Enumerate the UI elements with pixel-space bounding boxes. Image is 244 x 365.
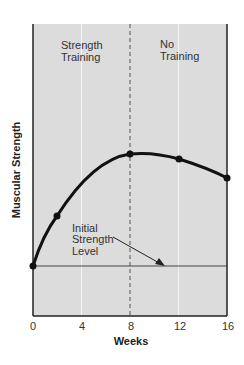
- data-point-week-2: [54, 213, 61, 220]
- data-point-week-0: [30, 263, 37, 270]
- chart: Strength Training No Training Initial St…: [0, 0, 244, 365]
- data-point-week-16: [224, 175, 231, 182]
- x-tick-0: 0: [30, 320, 36, 332]
- x-tick-16: 16: [222, 320, 234, 332]
- y-axis-title: Muscular Strength: [10, 121, 22, 218]
- region-label-no-training-2: Training: [160, 50, 199, 62]
- annotation-line-3: Level: [72, 245, 98, 257]
- x-tick-8: 8: [128, 320, 134, 332]
- data-point-week-8: [127, 151, 134, 158]
- x-axis-title: Weeks: [114, 335, 149, 347]
- x-tick-12: 12: [174, 320, 186, 332]
- region-label-no-training-1: No: [160, 38, 174, 50]
- region-label-strength-training-2: Training: [61, 51, 100, 63]
- annotation-line-2: Strength: [72, 233, 114, 245]
- data-point-week-12: [176, 156, 183, 163]
- region-label-strength-training-1: Strength: [61, 39, 103, 51]
- x-tick-4: 4: [79, 320, 85, 332]
